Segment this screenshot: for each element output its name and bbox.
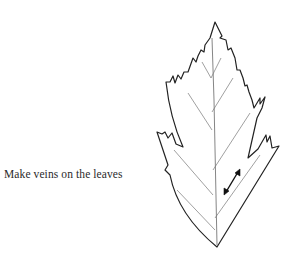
- leaf-drawing: [0, 0, 294, 260]
